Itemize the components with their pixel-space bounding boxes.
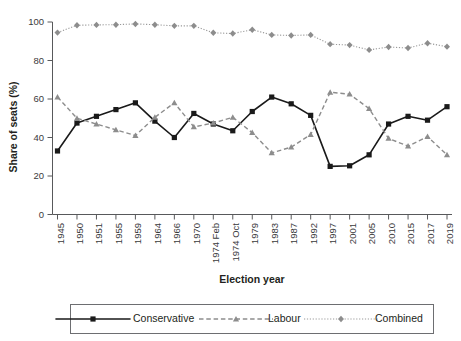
x-tick-label: 2001 — [347, 223, 358, 244]
x-tick-label: 1959 — [132, 223, 143, 244]
x-tick-label: 1945 — [55, 223, 66, 244]
x-tick-label: 1983 — [269, 223, 280, 244]
data-point-conservative — [405, 114, 410, 119]
data-point-conservative — [250, 109, 255, 114]
data-point-conservative — [172, 135, 177, 140]
legend-label-combined: Combined — [375, 312, 423, 324]
x-tick-label: 1992 — [308, 223, 319, 244]
data-point-conservative — [308, 113, 313, 118]
x-tick-label: 2017 — [425, 223, 436, 244]
x-tick-label: 1950 — [74, 223, 85, 244]
x-tick-label: 2015 — [405, 223, 416, 244]
y-tick-label: 20 — [33, 170, 44, 181]
x-tick-label: 1974 Feb — [210, 223, 221, 263]
data-point-conservative — [444, 104, 449, 109]
chart-legend: ConservativeLabourCombined — [56, 305, 434, 334]
x-tick-label: 2005 — [366, 223, 377, 244]
data-point-conservative — [94, 114, 99, 119]
x-tick-label: 2010 — [386, 223, 397, 244]
data-point-conservative — [269, 94, 274, 99]
y-tick-label: 100 — [28, 16, 44, 27]
x-tick-label: 1970 — [191, 223, 202, 244]
data-point-conservative — [328, 164, 333, 169]
x-tick-label: 1974 Oct — [230, 223, 241, 262]
data-point-conservative — [113, 107, 118, 112]
data-point-conservative — [289, 101, 294, 106]
y-tick-label: 40 — [33, 132, 44, 143]
y-tick-label: 0 — [39, 209, 44, 220]
x-tick-label: 1951 — [93, 223, 104, 244]
legend-label-labour: Labour — [268, 312, 301, 324]
legend-marker-conservative — [90, 316, 95, 321]
data-point-conservative — [191, 111, 196, 116]
x-tick-label: 1966 — [171, 223, 182, 244]
data-point-conservative — [386, 121, 391, 126]
y-axis-title: Share of seats (%) — [7, 81, 19, 172]
x-tick-label: 1979 — [249, 223, 260, 244]
data-point-conservative — [230, 128, 235, 133]
y-tick-label: 60 — [33, 93, 44, 104]
legend-label-conservative: Conservative — [133, 312, 194, 324]
data-point-conservative — [367, 152, 372, 157]
x-tick-label: 1964 — [152, 223, 163, 244]
x-axis-title: Election year — [219, 273, 284, 285]
x-tick-label: 1955 — [113, 223, 124, 244]
chart-container: Share of seats (%) 020406080100 19451950… — [0, 0, 461, 341]
x-tick-label: 1997 — [327, 223, 338, 244]
data-point-conservative — [74, 120, 79, 125]
y-tick-label: 80 — [33, 55, 44, 66]
x-tick-label: 1987 — [288, 223, 299, 244]
data-point-conservative — [133, 100, 138, 105]
x-tick-label: 2019 — [444, 223, 455, 244]
data-point-conservative — [55, 148, 60, 153]
data-point-conservative — [347, 163, 352, 168]
chart-background — [0, 0, 461, 341]
data-point-conservative — [425, 118, 430, 123]
line-chart-figure: Share of seats (%) 020406080100 19451950… — [0, 0, 461, 341]
